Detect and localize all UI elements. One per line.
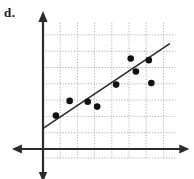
scatter-plot-figure: d.: [0, 0, 194, 179]
x-axis-arrow-right-icon: [179, 144, 189, 153]
data-point: [133, 68, 140, 75]
data-point: [94, 103, 101, 110]
data-point: [145, 57, 152, 64]
y-axis: [38, 11, 47, 179]
data-point: [84, 98, 91, 105]
x-axis: [12, 144, 189, 153]
y-axis-arrow-up-icon: [38, 11, 47, 22]
plot-canvas: [0, 0, 194, 179]
data-point: [113, 81, 120, 88]
data-point: [148, 80, 155, 87]
x-axis-arrow-left-icon: [12, 144, 22, 153]
data-point: [53, 112, 60, 119]
y-axis-arrow-down-icon: [39, 172, 47, 179]
data-point: [66, 98, 73, 105]
data-point: [127, 55, 134, 62]
grid-vertical-lines: [60, 23, 163, 158]
